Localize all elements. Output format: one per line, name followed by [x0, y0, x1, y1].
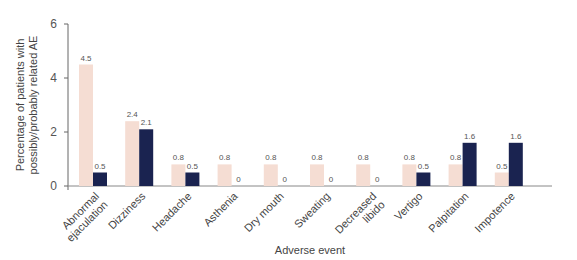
bar-value-label: 0.8 [450, 153, 462, 162]
svg-text:Dizziness: Dizziness [106, 189, 148, 231]
adverse-events-bar-chart: Percentage of patients withpossibly/prob… [0, 0, 577, 260]
bars: 4.50.52.42.10.80.50.800.800.800.800.80.5… [79, 54, 523, 187]
x-tick-label: Sweating [292, 190, 332, 230]
bar [79, 65, 93, 187]
x-tick-label: Vertigo [392, 190, 425, 223]
bar-value-label: 0.8 [173, 153, 185, 162]
x-tick-labels: AbnormalejaculationDizzinessHeadacheAsth… [56, 189, 517, 244]
bar-value-label: 0.5 [496, 162, 508, 171]
bar [185, 173, 199, 187]
bar [218, 164, 232, 186]
bar-value-label: 0.5 [418, 162, 430, 171]
y-axis-title: Percentage of patients withpossibly/prob… [14, 36, 39, 175]
x-tick-label: Impotence [472, 190, 517, 235]
x-tick-label: Headache [150, 190, 194, 234]
bar-value-label: 0 [283, 175, 288, 184]
x-tick-label: Dizziness [106, 189, 148, 231]
y-axis: 0246 [50, 17, 68, 193]
bar-value-label: 1.6 [510, 132, 522, 141]
y-tick-label: 4 [50, 71, 57, 85]
bar [125, 121, 139, 186]
x-tick-label: Palpitation [426, 190, 471, 235]
bar-value-label: 2.4 [127, 110, 139, 119]
bar-value-label: 0.8 [311, 153, 323, 162]
bar-value-label: 0.5 [94, 162, 106, 171]
bar-value-label: 2.1 [141, 118, 153, 127]
bar-value-label: 0 [375, 175, 380, 184]
x-tick-label: Decreasedlibido [332, 190, 387, 245]
svg-text:Dry mouth: Dry mouth [242, 190, 286, 234]
bar [356, 164, 370, 186]
bar [463, 143, 477, 186]
y-axis-title-line: Percentage of patients with [14, 39, 26, 172]
bar [171, 164, 185, 186]
svg-text:Asthenia: Asthenia [201, 189, 240, 228]
bar-value-label: 4.5 [80, 54, 92, 63]
bar-value-label: 0.8 [358, 153, 370, 162]
y-tick-label: 2 [50, 125, 57, 139]
bar-value-label: 0.8 [219, 153, 231, 162]
x-tick-label: Abnormalejaculation [56, 190, 110, 244]
svg-text:Vertigo: Vertigo [392, 190, 425, 223]
bar [449, 164, 463, 186]
bar [495, 173, 509, 187]
bar [264, 164, 278, 186]
x-axis-title: Adverse event [275, 244, 345, 256]
bar [402, 164, 416, 186]
y-axis-title-line: possibly/probably related AE [27, 36, 39, 175]
chart-canvas: Percentage of patients withpossibly/prob… [0, 0, 577, 260]
bar-value-label: 1.6 [464, 132, 476, 141]
y-tick-label: 6 [50, 17, 57, 31]
bar-value-label: 0.8 [265, 153, 277, 162]
bar-value-label: 0.8 [404, 153, 416, 162]
bar [509, 143, 523, 186]
bar [310, 164, 324, 186]
bar [416, 173, 430, 187]
bar [139, 129, 153, 186]
bar-value-label: 0 [236, 175, 241, 184]
svg-text:Sweating: Sweating [292, 190, 332, 230]
svg-text:Palpitation: Palpitation [426, 190, 471, 235]
bar-value-label: 0 [329, 175, 334, 184]
bar [93, 173, 107, 187]
x-tick-label: Dry mouth [242, 190, 286, 234]
bar-value-label: 0.5 [187, 162, 199, 171]
svg-text:Impotence: Impotence [472, 190, 517, 235]
x-tick-label: Asthenia [201, 189, 240, 228]
svg-text:Headache: Headache [150, 190, 194, 234]
y-tick-label: 0 [50, 179, 57, 193]
